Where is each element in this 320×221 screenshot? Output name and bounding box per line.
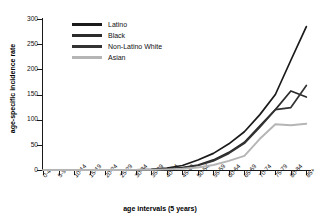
y-tick-label: 200: [0, 66, 38, 73]
chart-legend: LatinoBlackNon-Latino WhiteAsian: [72, 19, 162, 63]
legend-swatch: [72, 45, 102, 47]
series-line-black: [43, 91, 306, 170]
legend-item-latino[interactable]: Latino: [72, 19, 162, 30]
legend-swatch: [72, 56, 102, 58]
legend-item-asian[interactable]: Asian: [72, 52, 162, 63]
legend-label: Black: [108, 32, 125, 39]
legend-item-black[interactable]: Black: [72, 30, 162, 41]
legend-swatch: [72, 23, 102, 25]
y-tick-label: 250: [0, 41, 38, 48]
y-tick-label: 50: [0, 142, 38, 149]
legend-item-non-latino-white[interactable]: Non-Latino White: [72, 41, 162, 52]
y-tick-label: 100: [0, 116, 38, 123]
y-tick-label: 0: [0, 167, 38, 174]
y-axis-title: age-specific incidence rate: [9, 29, 16, 149]
series-line-non-latino-white: [43, 85, 306, 170]
chart-figure: 300250200150100500 age-specific incidenc…: [0, 0, 320, 221]
legend-label: Latino: [108, 21, 127, 28]
legend-label: Non-Latino White: [108, 43, 162, 50]
legend-label: Asian: [108, 54, 126, 61]
series-line-asian: [43, 124, 306, 170]
legend-swatch: [72, 34, 102, 36]
y-tick-label: 300: [0, 16, 38, 23]
x-axis-title: age intervals (5 years): [0, 205, 320, 212]
y-tick-label: 150: [0, 91, 38, 98]
